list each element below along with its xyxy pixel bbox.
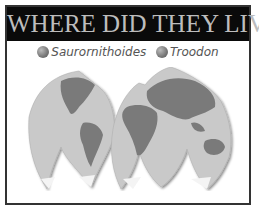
legend-dot-icon	[156, 46, 168, 58]
legend-label: Saurornithoides	[51, 45, 146, 59]
legend-label: Troodon	[170, 45, 219, 59]
legend-item-troodon: Troodon	[156, 45, 219, 59]
legend-dot-icon	[37, 46, 49, 58]
legend: Saurornithoides Troodon	[7, 45, 249, 59]
legend-item-saurornithoides: Saurornithoides	[37, 45, 146, 59]
poster-frame: WHERE DID THEY LIVE? Saurornithoides Tro…	[5, 5, 251, 205]
banner-title: WHERE DID THEY LIVE?	[7, 7, 249, 41]
world-map	[21, 67, 241, 191]
